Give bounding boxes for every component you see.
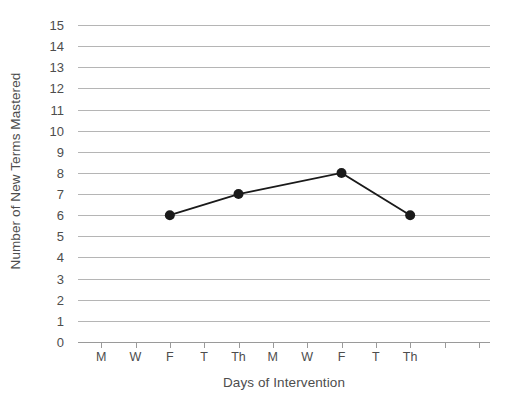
x-axis-tick-mark xyxy=(136,342,137,348)
x-axis-tick-mark xyxy=(445,342,446,348)
y-axis-tick-label: 9 xyxy=(57,144,64,159)
y-axis-tick-label: 4 xyxy=(57,250,64,265)
y-axis-tick-label: 13 xyxy=(50,60,64,75)
x-axis-tick-label: M xyxy=(268,350,278,364)
y-axis-tick-label: 15 xyxy=(50,18,64,33)
y-axis-tick-label: 0 xyxy=(57,335,64,350)
y-axis-tick-label: 10 xyxy=(50,123,64,138)
x-axis-tick-mark xyxy=(410,342,411,348)
y-axis-tick-label: 1 xyxy=(57,313,64,328)
x-axis-tick-mark xyxy=(342,342,343,348)
x-axis-tick-label: Th xyxy=(403,350,418,364)
data-point-marker xyxy=(165,210,175,220)
x-axis-tick-label: Th xyxy=(231,350,246,364)
x-axis-tick-mark xyxy=(479,342,480,348)
y-axis-tick-label: 6 xyxy=(57,208,64,223)
x-axis-tick-label: W xyxy=(301,350,313,364)
x-axis-tick-label: F xyxy=(166,350,174,364)
y-axis-tick-label: 11 xyxy=(51,102,65,117)
y-axis-tick-label: 5 xyxy=(57,229,64,244)
x-axis-tick-mark xyxy=(101,342,102,348)
x-axis-tick-mark xyxy=(239,342,240,348)
x-axis-ticks: MWFTThMWFTTh xyxy=(78,342,490,372)
x-axis-tick-label: T xyxy=(200,350,208,364)
line-chart: Number of New Terms Mastered 01234567891… xyxy=(0,0,510,411)
y-axis-tick-label: 7 xyxy=(57,187,64,202)
x-axis-title: Days of Intervention xyxy=(78,371,490,393)
x-axis-tick-label: T xyxy=(372,350,380,364)
x-axis-tick-mark xyxy=(376,342,377,348)
x-axis-tick-label: W xyxy=(130,350,142,364)
x-axis-tick-mark xyxy=(307,342,308,348)
series-line-group xyxy=(78,25,490,342)
y-axis-tick-label: 3 xyxy=(57,271,64,286)
y-axis-tick-labels: 0123456789101112131415 xyxy=(0,25,70,342)
data-point-marker xyxy=(234,189,244,199)
series-line xyxy=(170,173,410,215)
data-point-marker xyxy=(337,168,347,178)
y-axis-tick-label: 2 xyxy=(57,292,64,307)
y-axis-tick-label: 12 xyxy=(50,81,64,96)
x-axis-tick-mark xyxy=(273,342,274,348)
y-axis-tick-label: 8 xyxy=(57,165,64,180)
x-axis-tick-mark xyxy=(170,342,171,348)
x-axis-tick-label: M xyxy=(96,350,106,364)
x-axis-tick-mark xyxy=(204,342,205,348)
x-axis-tick-label: F xyxy=(338,350,346,364)
y-axis-tick-label: 14 xyxy=(50,39,64,54)
data-point-marker xyxy=(405,210,415,220)
